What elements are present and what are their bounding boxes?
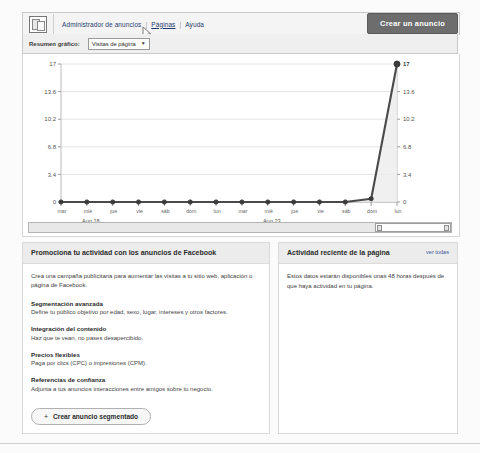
feature-description: Haz que te vean, no pases desapercibido.	[31, 334, 261, 343]
promote-intro-text: Crea una campaña publicitaria para aumen…	[31, 272, 261, 291]
grip-handle-right[interactable]	[444, 225, 449, 231]
feature-title: Referencias de confianza	[31, 376, 261, 383]
svg-text:dom: dom	[186, 208, 196, 214]
svg-text:vie: vie	[136, 208, 143, 214]
graph-metric-select[interactable]: Visitas de página ▼	[88, 38, 150, 50]
range-thumb[interactable]	[375, 223, 451, 232]
view-all-link[interactable]: ver todas	[426, 248, 449, 255]
create-targeted-ad-label: Crear anuncio segmentado	[53, 413, 138, 420]
svg-text:lun: lun	[214, 208, 221, 214]
promote-panel-title: Promociona tu actividad con los anuncios…	[31, 248, 216, 258]
svg-text:0: 0	[53, 199, 57, 205]
svg-text:dom: dom	[367, 208, 377, 214]
create-targeted-ad-button[interactable]: + Crear anuncio segmentado	[31, 408, 151, 425]
chart-gridlines	[58, 64, 400, 202]
activity-empty-note: Estos datos estarán disponibles unas 48 …	[287, 272, 449, 291]
feature-title: Precios flexibles	[31, 351, 261, 358]
create-ad-button[interactable]: Crear un anuncio	[367, 13, 458, 34]
feature-item: Integración del contenido Haz que te vea…	[31, 325, 261, 343]
svg-text:17: 17	[403, 61, 410, 67]
recent-activity-panel: Actividad reciente de la página ver toda…	[278, 242, 458, 434]
svg-text:jue: jue	[109, 208, 117, 214]
svg-text:6.8: 6.8	[403, 144, 412, 150]
chart-y-axis-right: 03.46.810.213.617	[403, 61, 415, 205]
svg-text:13.6: 13.6	[44, 89, 56, 95]
promote-panel-header: Promociona tu actividad con los anuncios…	[23, 243, 269, 264]
nav-divider: |	[145, 21, 147, 28]
feature-description: Define tu público objetivo por edad, sex…	[31, 308, 261, 317]
chart-area-fill	[61, 64, 397, 202]
nav-item-ads-manager[interactable]: Administrador de anuncios	[62, 21, 141, 28]
nav-item-help[interactable]: Ayuda	[185, 21, 204, 28]
graph-metric-value: Visitas de página	[92, 41, 136, 47]
svg-text:10.2: 10.2	[44, 116, 56, 122]
page-root: Administrador de anuncios | Páginas | Ay…	[0, 0, 480, 453]
chart-range-scrollbar[interactable]	[22, 222, 458, 234]
graph-toolbar: Resumen gráfico: Visitas de página ▼	[22, 34, 458, 54]
promote-activity-panel: Promociona tu actividad con los anuncios…	[22, 242, 270, 434]
chart-panel: 03.46.810.213.617 03.46.810.213.617 marm…	[22, 54, 460, 237]
svg-text:vie: vie	[317, 208, 324, 214]
svg-text:6.8: 6.8	[48, 144, 57, 150]
grip-handle-left[interactable]	[377, 225, 382, 231]
svg-text:10.2: 10.2	[403, 116, 415, 122]
svg-text:mar: mar	[238, 208, 247, 214]
feature-title: Integración del contenido	[31, 325, 261, 332]
feature-description: Adjunta a tus anuncios interacciones ent…	[31, 385, 261, 394]
chart-line	[61, 64, 397, 202]
chart-x-axis: marmiéjueviesábdomlunmarmiéjueviesábdoml…	[58, 202, 402, 214]
feature-item: Precios flexibles Paga por clics (CPC) o…	[31, 351, 261, 369]
windows-icon	[29, 16, 47, 33]
activity-panel-header: Actividad reciente de la página ver toda…	[279, 243, 457, 264]
feature-title: Segmentación avanzada	[31, 300, 261, 307]
content-panels: Promociona tu actividad con los anuncios…	[22, 242, 458, 434]
chart-data-points: 17	[59, 61, 410, 204]
promote-panel-body: Crea una campaña publicitaria para aumen…	[23, 264, 269, 433]
svg-text:mié: mié	[84, 208, 92, 214]
graph-summary-label: Resumen gráfico:	[29, 41, 80, 47]
feature-item: Referencias de confianza Adjunta a tus a…	[31, 376, 261, 394]
svg-text:mié: mié	[265, 208, 273, 214]
svg-text:sáb: sáb	[342, 208, 350, 214]
svg-text:lun: lun	[395, 208, 402, 214]
plus-icon: +	[44, 413, 48, 420]
svg-text:13.6: 13.6	[403, 89, 415, 95]
svg-text:mar: mar	[58, 208, 67, 214]
svg-text:3.4: 3.4	[48, 172, 57, 178]
chart-y-axis-left: 03.46.810.213.617	[44, 61, 56, 205]
feature-description: Paga por clics (CPC) o impresiones (CPM)…	[31, 359, 261, 368]
activity-panel-body: Estos datos estarán disponibles unas 48 …	[279, 264, 457, 299]
svg-text:17: 17	[49, 61, 56, 67]
svg-text:sáb: sáb	[161, 208, 169, 214]
main-nav: Administrador de anuncios | Páginas | Ay…	[62, 21, 204, 28]
nav-divider: |	[179, 21, 181, 28]
svg-text:jue: jue	[290, 208, 298, 214]
svg-text:0: 0	[403, 199, 407, 205]
activity-panel-title: Actividad reciente de la página	[287, 248, 390, 258]
toolbar-divider	[53, 14, 54, 34]
chevron-down-icon: ▼	[141, 41, 146, 46]
range-track[interactable]	[28, 222, 452, 233]
feature-item: Segmentación avanzada Define tu público …	[31, 300, 261, 318]
svg-text:3.4: 3.4	[403, 172, 412, 178]
nav-item-pages[interactable]: Páginas	[151, 21, 175, 28]
page-bottom-divider	[0, 443, 480, 444]
page-visits-line-chart[interactable]: 03.46.810.213.617 03.46.810.213.617 marm…	[23, 54, 457, 234]
